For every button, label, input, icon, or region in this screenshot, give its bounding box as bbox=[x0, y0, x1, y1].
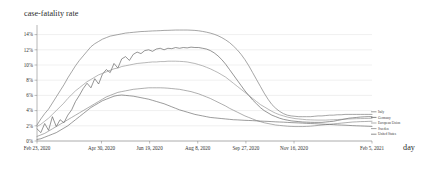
legend-label-united-states: United States bbox=[378, 132, 397, 136]
y-tick-12%: 12% bbox=[24, 47, 34, 53]
legend-label-italy: Italy bbox=[378, 110, 385, 114]
series-line-european-union bbox=[37, 61, 372, 126]
series-lines bbox=[37, 30, 372, 139]
y-axis bbox=[35, 25, 38, 141]
series-line-sweden bbox=[37, 88, 372, 137]
x-tick-2: Jun 19, 2020 bbox=[137, 145, 164, 151]
y-tick-14%: 14% bbox=[24, 31, 34, 37]
y-tick-6%: 6% bbox=[26, 92, 34, 98]
x-axis-label: day bbox=[403, 143, 416, 152]
x-tick-6: Feb 5, 2021 bbox=[360, 145, 385, 151]
y-tick-10%: 10% bbox=[24, 62, 34, 68]
x-axis-tick-labels: Feb 23, 2020Apr 30, 2020Jun 19, 2020Aug … bbox=[24, 145, 385, 151]
x-axis bbox=[37, 141, 372, 144]
series-line-united-states bbox=[37, 95, 372, 139]
legend-label-european-union: European Union bbox=[378, 121, 401, 125]
y-tick-2%: 2% bbox=[26, 123, 34, 129]
chart-title: case-fatality rate bbox=[24, 9, 79, 18]
x-tick-4: Sep 27, 2020 bbox=[233, 145, 260, 151]
x-tick-3: Aug 8, 2020 bbox=[185, 145, 211, 151]
y-tick-8%: 8% bbox=[26, 77, 34, 83]
y-tick-4%: 4% bbox=[26, 107, 34, 113]
chart-legend: ItalyGermanyEuropean UnionSwedenUnited S… bbox=[371, 110, 401, 136]
legend-label-germany: Germany bbox=[378, 116, 391, 120]
legend-label-sweden: Sweden bbox=[378, 127, 389, 131]
chart-container: 14%12%10%8%6%4%2%0% Feb 23, 2020Apr 30, … bbox=[0, 0, 433, 171]
y-axis-tick-labels: 14%12%10%8%6%4%2%0% bbox=[24, 31, 34, 143]
x-tick-1: Apr 30, 2020 bbox=[88, 145, 115, 151]
x-tick-0: Feb 23, 2020 bbox=[24, 145, 51, 151]
case-fatality-rate-line-chart: 14%12%10%8%6%4%2%0% Feb 23, 2020Apr 30, … bbox=[0, 0, 433, 171]
y-tick-0%: 0% bbox=[26, 138, 34, 144]
x-tick-5: Nov 16, 2020 bbox=[280, 145, 308, 151]
